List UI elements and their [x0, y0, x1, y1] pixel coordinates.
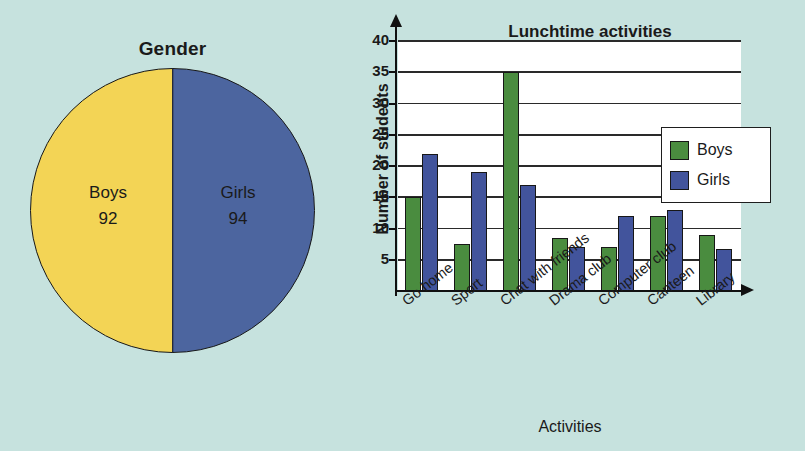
y-tick-mark-15 — [389, 196, 396, 198]
pie-chart: Boys 92 Girls 94 — [30, 68, 315, 353]
gridline-30 — [398, 103, 741, 105]
y-tick-label-10: 10 — [345, 219, 389, 236]
y-tick-label-30: 30 — [345, 94, 389, 111]
y-tick-mark-40 — [389, 40, 396, 42]
y-tick-label-5: 5 — [345, 250, 389, 267]
pie-chart-title: Gender — [0, 38, 345, 60]
gridline-35 — [398, 71, 741, 73]
x-axis-label: Activities — [405, 418, 735, 436]
y-tick-mark-25 — [389, 134, 396, 136]
pie-slice-girls: Girls 94 — [178, 180, 298, 233]
gridline-10 — [398, 228, 741, 230]
figure-root: Gender Boys 92 Girls 94 Lunchtime activi… — [0, 0, 805, 451]
y-tick-label-35: 35 — [345, 62, 389, 79]
legend-item-boys: Boys — [670, 135, 762, 165]
pie-slice-boys: Boys 92 — [48, 180, 168, 233]
legend-label-boys: Boys — [697, 141, 733, 159]
y-tick-label-20: 20 — [345, 156, 389, 173]
legend-swatch-boys-icon — [670, 141, 689, 160]
legend-item-girls: Girls — [670, 165, 762, 195]
y-tick-mark-30 — [389, 103, 396, 105]
bar-chart-title: Lunchtime activities — [425, 22, 755, 42]
gridline-40 — [398, 40, 741, 42]
bar-girls-sport — [471, 172, 488, 291]
y-tick-label-25: 25 — [345, 125, 389, 142]
y-tick-mark-5 — [389, 259, 396, 261]
pie-slice-girls-value: 94 — [178, 206, 298, 232]
y-tick-label-15: 15 — [345, 187, 389, 204]
y-axis-ticks: 510152025303540 — [345, 0, 395, 451]
pie-slice-boys-label: Boys — [89, 183, 127, 202]
legend-swatch-girls-icon — [670, 171, 689, 190]
pie-slice-boys-value: 92 — [48, 206, 168, 232]
pie-divider — [172, 68, 174, 353]
y-tick-mark-10 — [389, 228, 396, 230]
bar-chart-panel: Lunchtime activities Number of students … — [345, 0, 805, 451]
bar-boys-go-home — [405, 197, 422, 291]
pie-slice-girls-label: Girls — [221, 183, 256, 202]
chart-legend: Boys Girls — [661, 127, 771, 203]
pie-chart-panel: Gender Boys 92 Girls 94 — [0, 0, 345, 451]
legend-label-girls: Girls — [697, 171, 730, 189]
x-axis-arrow-icon — [741, 284, 754, 296]
y-tick-mark-35 — [389, 71, 396, 73]
y-tick-mark-20 — [389, 165, 396, 167]
bar-boys-chat-with-friends — [503, 72, 520, 291]
y-axis-line — [395, 24, 397, 296]
y-tick-label-40: 40 — [345, 31, 389, 48]
